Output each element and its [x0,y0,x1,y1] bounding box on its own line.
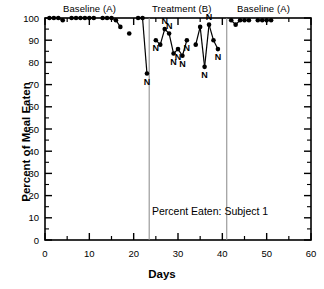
data-segment [160,29,164,45]
data-point [127,31,132,36]
data-point [109,16,114,21]
data-point [118,25,123,30]
data-segment [205,25,209,67]
data-point [202,65,207,70]
data-point [74,16,79,21]
data-point-group [47,16,273,76]
data-point [140,16,145,21]
x-tick-label: 0 [42,248,47,259]
chart-annotation: Percent Eaten: Subject 1 [152,205,268,217]
x-tick-label: 20 [128,248,139,259]
data-point [91,16,96,21]
n-label: N [184,43,191,53]
n-label: N [144,77,151,87]
data-segment [196,27,200,45]
n-label: N [206,12,213,22]
data-point [207,22,212,27]
data-point [87,16,92,21]
y-tick-label: 10 [28,212,39,223]
data-point [100,16,105,21]
n-label: N [153,43,160,53]
x-axis-title: Days [0,268,324,280]
x-tick-label: 30 [173,248,184,259]
data-segment [169,34,173,54]
n-label: N [179,59,186,69]
data-point [176,47,181,52]
y-axis-title: Percent of Meal Eaten [20,78,32,206]
data-point [185,38,190,43]
y-tick-label: 100 [23,13,39,24]
plot-area: 0102030405060 0102030405060708090100 NNN… [0,0,324,289]
x-tick-label: 50 [261,248,272,259]
data-point [247,18,252,23]
data-point [105,16,110,21]
chart-figure: Baseline (A) Treatment (B) Baseline (A) … [0,0,324,289]
x-tick-label: 10 [84,248,95,259]
x-tick-label: 40 [217,248,228,259]
data-point [83,16,88,21]
data-point [52,16,57,21]
data-point [216,47,221,52]
data-point [264,18,269,23]
data-point [136,16,141,21]
data-point [60,18,65,23]
data-point [211,38,216,43]
data-point [78,16,83,21]
data-point [260,18,265,23]
x-tick-label: 60 [306,248,317,259]
y-tick-label: 0 [34,235,39,246]
n-label: N [201,70,208,80]
y-tick-label: 90 [28,35,39,46]
data-point [255,18,260,23]
x-axis-tick-labels: 0102030405060 [42,248,316,259]
n-label: N [166,21,173,31]
data-point [238,18,243,23]
data-segment [200,27,204,67]
y-tick-label: 80 [28,57,39,68]
data-point [69,16,74,21]
data-point [269,18,274,23]
data-point [193,42,198,47]
data-point [229,18,234,23]
data-segment [209,25,213,41]
data-point [114,18,119,23]
data-point [56,16,61,21]
data-point [145,71,150,76]
data-point [47,16,52,21]
data-point [198,25,203,30]
data-point [154,38,159,43]
data-point [242,18,247,23]
data-segment [143,18,147,74]
data-point [233,22,238,27]
data-point [167,31,172,36]
n-label: N [215,52,222,62]
